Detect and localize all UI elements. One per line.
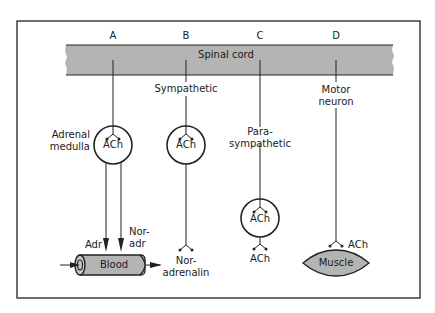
- blood-label: Blood: [87, 259, 141, 270]
- motor-label: Motor: [312, 84, 360, 95]
- nor-label: Nor-: [129, 226, 150, 237]
- column-label-d: D: [328, 30, 344, 41]
- sympathetic-label: Sympathetic: [152, 83, 220, 94]
- nor-adrenalin-line2: adrenalin: [160, 267, 212, 278]
- pathway-a: [94, 60, 132, 252]
- ganglion-label-b: ACh: [172, 139, 200, 150]
- spinal-cord-label: Spinal cord: [186, 49, 266, 60]
- neuron-label: neuron: [312, 96, 360, 107]
- ganglion-label-a: ACh: [99, 139, 127, 150]
- column-label-b: B: [178, 30, 194, 41]
- column-label-a: A: [105, 30, 121, 41]
- adr-label: Adr: [76, 239, 102, 250]
- ach-d-label: ACh: [348, 239, 368, 250]
- nor-adrenalin-line1: Nor-: [160, 255, 212, 266]
- muscle-label: Muscle: [312, 257, 360, 268]
- ach-c-label: ACh: [246, 253, 274, 264]
- adrenal-label: Adrenal: [40, 129, 90, 140]
- medulla-label: medulla: [40, 141, 90, 152]
- arrow-down-icon: [103, 238, 109, 252]
- ganglion-label-c: ACh: [246, 213, 274, 224]
- arrow-down-icon: [118, 238, 124, 252]
- para-label: Para-: [228, 126, 292, 137]
- diagram-canvas: [0, 0, 435, 313]
- column-label-c: C: [252, 30, 268, 41]
- sympathetic-c-label: sympathetic: [228, 138, 292, 149]
- adr2-label: adr: [129, 238, 146, 249]
